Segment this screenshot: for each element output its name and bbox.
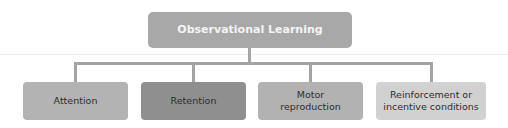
child-node-retention: Retention xyxy=(141,82,246,120)
connector-reinforcement xyxy=(430,62,433,82)
child-node-motor-reproduction: Motor reproduction xyxy=(258,82,363,120)
child-node-label: Attention xyxy=(54,95,98,107)
connector-attention xyxy=(74,62,77,82)
connector-retention xyxy=(192,62,195,82)
child-node-label: Reinforcement or incentive conditions xyxy=(380,89,482,113)
observational-learning-diagram: Observational Learning Attention Retenti… xyxy=(0,0,508,128)
background-rule xyxy=(0,54,508,55)
root-node-observational-learning: Observational Learning xyxy=(148,12,352,48)
child-node-label: Motor reproduction xyxy=(276,89,346,113)
root-node-label: Observational Learning xyxy=(177,24,322,36)
child-node-label: Retention xyxy=(171,95,217,107)
horizontal-connector xyxy=(74,62,433,65)
connector-motor-reproduction xyxy=(309,62,312,82)
child-node-attention: Attention xyxy=(23,82,128,120)
child-node-reinforcement: Reinforcement or incentive conditions xyxy=(376,82,486,120)
